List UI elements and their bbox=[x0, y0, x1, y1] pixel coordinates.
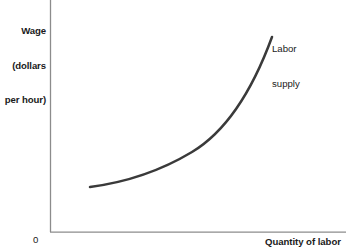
y-axis-title-line-2: (dollars bbox=[0, 60, 46, 72]
labor-supply-curve-label: Labor supply bbox=[272, 19, 300, 113]
curve-label-line-1: Labor bbox=[272, 43, 300, 55]
y-axis-title-line-3: per hour) bbox=[0, 94, 46, 106]
labor-supply-curve bbox=[90, 37, 272, 187]
y-axis-title: Wage (dollars per hour) bbox=[0, 2, 46, 129]
origin-label: 0 bbox=[33, 234, 38, 246]
x-axis-title: Quantity of labor bbox=[265, 236, 341, 248]
curve-label-line-2: supply bbox=[272, 78, 300, 90]
y-axis-title-line-1: Wage bbox=[0, 25, 46, 37]
labor-supply-figure: Wage (dollars per hour) 0 Quantity of la… bbox=[0, 0, 346, 252]
